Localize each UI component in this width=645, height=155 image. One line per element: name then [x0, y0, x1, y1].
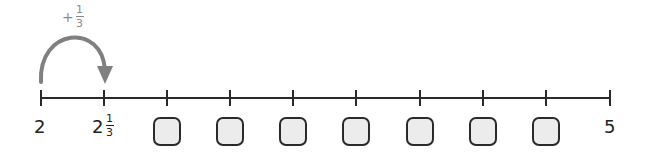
answer-box-7[interactable] [532, 117, 560, 146]
jump-arrow-arc [41, 37, 105, 82]
answer-box-5[interactable] [406, 117, 434, 146]
label-start: 2 [34, 118, 45, 136]
answer-box-6[interactable] [469, 117, 497, 146]
label-second-fraction: 1 3 [105, 113, 114, 138]
jump-arrow-head-icon [97, 66, 113, 84]
answer-box-1[interactable] [153, 117, 181, 146]
answer-box-2[interactable] [216, 117, 244, 146]
answer-box-4[interactable] [342, 117, 370, 146]
number-line-diagram: + 1 3 2 2 1 3 5 [0, 0, 645, 155]
jump-fraction: 1 3 [75, 4, 84, 29]
second-denominator: 3 [105, 127, 114, 138]
label-end: 5 [604, 118, 615, 136]
jump-numerator: 1 [75, 4, 84, 15]
label-second-whole: 2 [92, 118, 103, 136]
jump-sign: + [62, 10, 74, 24]
answer-box-3[interactable] [279, 117, 307, 146]
second-numerator: 1 [105, 113, 114, 124]
jump-denominator: 3 [75, 18, 84, 29]
